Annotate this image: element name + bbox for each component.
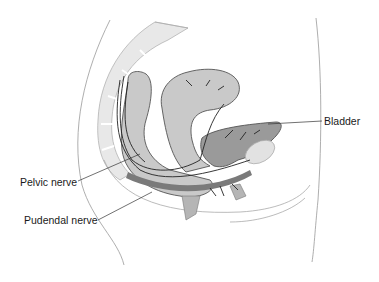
label-bladder: Bladder — [324, 115, 360, 127]
perineum — [182, 196, 200, 220]
pelvis-diagram — [0, 0, 379, 282]
label-pelvic-nerve: Pelvic nerve — [20, 176, 77, 188]
label-pudendal-nerve: Pudendal nerve — [24, 214, 98, 226]
body-outline-front — [312, 18, 321, 262]
leader-pudendal-nerve — [98, 192, 152, 220]
